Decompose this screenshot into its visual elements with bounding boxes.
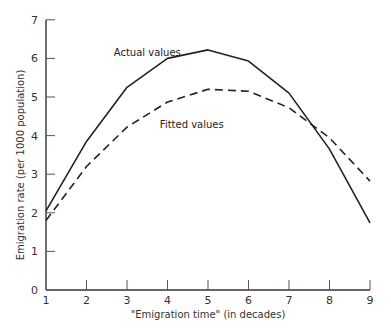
x-tick-label: 9 xyxy=(367,294,374,307)
line-chart: 01234567 123456789 Actual valuesFitted v… xyxy=(0,0,391,330)
annotations: Actual valuesFitted values xyxy=(114,47,224,129)
x-tick-label: 5 xyxy=(205,294,212,307)
actual-values-label: Actual values xyxy=(114,47,181,58)
y-tick-label: 1 xyxy=(31,245,38,258)
x-axis-title: "Emigration time" (in decades) xyxy=(131,309,286,320)
x-tick-label: 8 xyxy=(326,294,333,307)
x-tick-label: 2 xyxy=(83,294,90,307)
y-tick-label: 7 xyxy=(31,14,38,27)
y-tick-label: 4 xyxy=(31,130,38,143)
x-axis-ticks: 123456789 xyxy=(43,280,374,307)
x-tick-label: 1 xyxy=(43,294,50,307)
actual-values-line xyxy=(46,50,370,223)
x-tick-label: 7 xyxy=(286,294,293,307)
y-axis-ticks: 01234567 xyxy=(31,14,55,297)
y-tick-label: 0 xyxy=(31,284,38,297)
y-tick-label: 6 xyxy=(31,52,38,65)
y-tick-label: 2 xyxy=(31,207,38,220)
y-axis-title: Emigration rate (per 1000 population) xyxy=(15,70,26,261)
fitted-values-label: Fitted values xyxy=(160,119,224,130)
x-tick-label: 4 xyxy=(164,294,171,307)
y-tick-label: 5 xyxy=(31,91,38,104)
y-tick-label: 3 xyxy=(31,168,38,181)
x-tick-label: 6 xyxy=(245,294,252,307)
fitted-values-line xyxy=(46,89,370,220)
series-lines xyxy=(46,50,370,223)
x-tick-label: 3 xyxy=(124,294,131,307)
axes xyxy=(46,20,370,290)
